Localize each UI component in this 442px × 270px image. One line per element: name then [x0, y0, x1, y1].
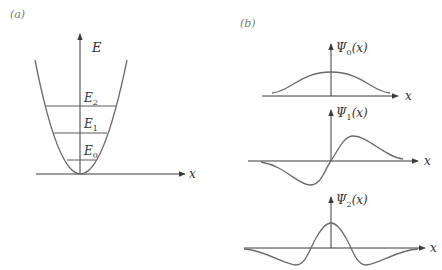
level-label-e1: E1: [83, 117, 98, 133]
psi1-x-label: x: [424, 154, 431, 168]
psi0-plot: Ψ0(x) x: [262, 41, 412, 103]
level-label-e2: E2: [83, 91, 98, 107]
psi2-label: Ψ2(x): [336, 193, 368, 209]
x-axis-a-label: x: [189, 167, 196, 181]
psi2-x-label: x: [430, 241, 437, 255]
panel-a-label: (a): [10, 8, 25, 21]
parabola-potential: [35, 60, 127, 174]
psi0-x-label: x: [405, 89, 412, 103]
psi0-label: Ψ0(x): [336, 41, 368, 57]
psi2-plot: Ψ2(x) x: [244, 193, 437, 265]
level-label-e0: E0: [83, 144, 98, 160]
psi1-plot: Ψ1(x) x: [248, 106, 431, 185]
panel-b-label: (b): [240, 17, 256, 30]
panel-b: (b) Ψ0(x) x Ψ1(x) x Ψ2(x) x: [240, 17, 437, 265]
psi1-label: Ψ1(x): [336, 106, 368, 122]
panel-a: (a) E x E2 E1 E0: [10, 8, 196, 181]
figure: (a) E x E2 E1 E0 (b) Ψ0(x) x Ψ1(x) x: [0, 0, 442, 270]
energy-axis-label: E: [91, 40, 102, 55]
